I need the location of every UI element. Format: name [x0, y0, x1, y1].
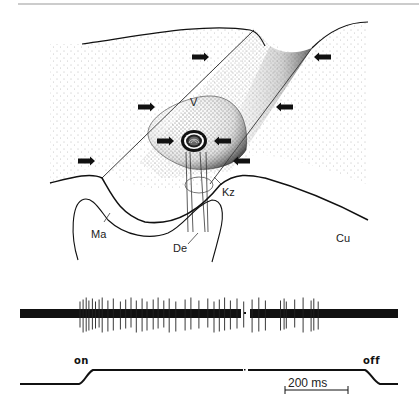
de-leader [188, 233, 198, 244]
baseline-noise-band-2 [250, 309, 398, 318]
label-cu: Cu [336, 232, 350, 244]
illustration: V Kz Ma De Cu [50, 22, 368, 262]
scale-bar-label: 200 ms [288, 376, 327, 390]
stimulus-trace: on off [20, 355, 398, 384]
stimulus-line-pre [20, 370, 243, 384]
sensillum [181, 130, 207, 152]
stimulus-break-marker [244, 369, 246, 371]
scale-bar: 200 ms [285, 376, 348, 394]
figure-canvas: V Kz Ma De Cu on off 200 ms [0, 0, 419, 408]
label-v: V [190, 96, 198, 108]
label-de: De [173, 242, 187, 254]
label-kz: Kz [222, 186, 235, 198]
label-ma: Ma [91, 228, 107, 240]
spike-recording [20, 298, 398, 333]
stimulus-on-label: on [74, 355, 89, 366]
stimulus-off-label: off [363, 355, 380, 366]
break-marker [244, 312, 246, 314]
kz-leader [214, 177, 222, 185]
cuticle-outline [50, 175, 368, 222]
